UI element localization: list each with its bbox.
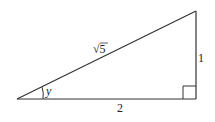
right-triangle-diagram: √5 2 1 y [0, 0, 215, 122]
angle-arc [42, 87, 43, 99]
hypotenuse-side [17, 11, 196, 99]
hypotenuse-label: √5 [93, 42, 106, 56]
radicand: 5 [100, 42, 106, 56]
angle-label: y [45, 84, 52, 98]
height-label: 1 [198, 51, 204, 65]
base-label: 2 [117, 101, 123, 115]
right-angle-marker [183, 86, 196, 99]
